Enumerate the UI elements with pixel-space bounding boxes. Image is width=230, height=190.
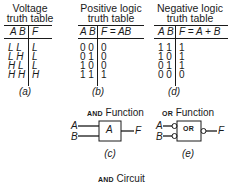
table-header-rule xyxy=(78,38,144,39)
positive-row-4-output: 1 xyxy=(101,70,107,79)
positive-table-caption: (b) xyxy=(87,86,109,97)
or-function-caption: (e) xyxy=(177,148,199,159)
or-output-label: F xyxy=(218,125,224,136)
table-header-rule xyxy=(154,38,228,39)
and-input-a-label: A xyxy=(71,120,78,131)
negative-table-title-line2: truth table xyxy=(150,13,230,24)
and-input-b-label: B xyxy=(71,131,78,142)
and-circuit-title: AND Circuit xyxy=(98,173,145,184)
voltage-header-inputs: A B xyxy=(10,26,26,37)
voltage-table-caption: (a) xyxy=(14,86,36,97)
or-input-b-label: B xyxy=(156,131,163,142)
negative-row-4-output: 0 xyxy=(179,70,185,79)
table-column-divider xyxy=(28,26,29,86)
and-function-diagram: AND Function A A B F (c) xyxy=(70,100,150,165)
or-input-a-label: A xyxy=(156,120,163,131)
voltage-row-4-inputs: H H xyxy=(8,70,25,79)
positive-logic-truth-table: Positive logic truth table A B F = AB 0 … xyxy=(75,0,155,100)
voltage-table-title-line2: truth table xyxy=(0,13,60,24)
negative-header-inputs: A B xyxy=(158,26,174,37)
or-function-diagram: OR Function OR A B F (e) xyxy=(155,100,230,165)
and-output-label: F xyxy=(135,125,141,136)
and-circuit-smallcaps-label: AND xyxy=(98,176,114,183)
and-function-caption: (c) xyxy=(99,148,121,159)
negative-header-output: F = A + B xyxy=(179,26,220,37)
or-gate-label: OR xyxy=(183,125,194,132)
voltage-header-output: F xyxy=(32,26,38,37)
voltage-truth-table: Voltage truth table A B F L L L L H L H … xyxy=(0,0,60,100)
voltage-row-4-output: H xyxy=(32,70,39,79)
positive-table-title-line2: truth table xyxy=(75,13,147,24)
and-gate-label: A xyxy=(106,124,113,135)
negative-row-4-inputs: 0 0 xyxy=(158,70,172,79)
negative-logic-truth-table: Negative logic truth table A B F = A + B… xyxy=(150,0,230,100)
table-column-divider xyxy=(97,26,98,86)
table-column-divider xyxy=(175,26,176,86)
negative-table-caption: (d) xyxy=(163,86,185,97)
positive-row-4-inputs: 1 1 xyxy=(80,70,94,79)
and-circuit-label: Circuit xyxy=(117,173,145,184)
positive-header-output: F = AB xyxy=(101,26,131,37)
positive-header-inputs: A B xyxy=(80,26,96,37)
